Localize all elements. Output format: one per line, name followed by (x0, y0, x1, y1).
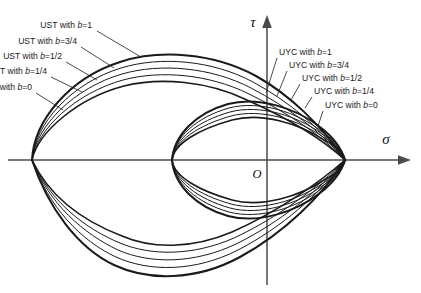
leader-uyc-b-1-2 (291, 84, 300, 100)
ust-curve-b-3-4 (32, 61, 345, 267)
leader-ust-b-1-2 (66, 62, 97, 80)
callout-labels-uyc: UYC with b=1 UYC with b=3/4 UYC with b=1… (279, 47, 378, 110)
callout-leader-lines (36, 31, 323, 126)
tau-axis-arrowhead (262, 15, 272, 28)
leader-uyc-b-0 (318, 111, 323, 126)
callout-uyc-b-1-4: UYC with b=1/4 (314, 86, 374, 96)
figure-canvas: UST with b=1 UST with b=3/4 UST with b=1… (0, 0, 421, 293)
sigma-axis-label: σ (382, 131, 390, 147)
callout-labels-ust: UST with b=1 UST with b=3/4 UST with b=1… (0, 20, 92, 92)
callout-ust-b-3-4: UST with b=3/4 (18, 36, 77, 46)
callout-ust-b-1: UST with b=1 (40, 20, 92, 30)
callout-uyc-b-3-4: UYC with b=3/4 (289, 60, 349, 70)
leader-uyc-b-1-4 (305, 97, 312, 108)
callout-ust-b-1-2: UST with b=1/2 (3, 51, 62, 61)
origin-label: O (252, 167, 261, 181)
callout-uyc-b-1: UYC with b=1 (279, 47, 332, 57)
axes-group (8, 15, 411, 285)
callout-uyc-b-1-2: UYC with b=1/2 (302, 73, 362, 83)
leader-ust-b-3-4 (81, 47, 114, 68)
callout-ust-b-1-4: UST with b=1/4 (0, 66, 47, 76)
sigma-tau-locus-figure: UST with b=1 UST with b=3/4 UST with b=1… (0, 0, 421, 293)
leader-ust-b-1 (97, 31, 141, 57)
callout-uyc-b-0: UYC with b=0 (325, 100, 378, 110)
tau-axis-label: τ (250, 14, 256, 30)
ust-curve-b-1-2 (32, 68, 345, 260)
callout-ust-b-0: UST with b=0 (0, 82, 32, 92)
sigma-axis-arrowhead (398, 155, 411, 165)
